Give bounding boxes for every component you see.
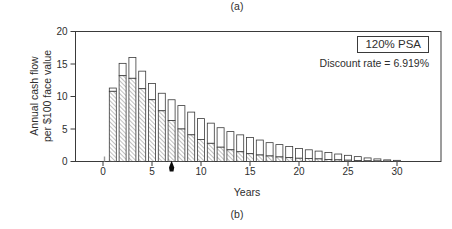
- y-tick-label: 5: [62, 124, 68, 135]
- y-tick-label: 20: [56, 26, 68, 37]
- bar-upper-year-22: [315, 151, 322, 159]
- bar-hatched-year-5: [149, 100, 156, 162]
- bar-hatched-year-12: [217, 147, 224, 161]
- bar-upper-year-11: [207, 123, 214, 143]
- x-tick-label: 20: [293, 166, 305, 177]
- cash-flow-bar-chart: 05101520051015202530: [0, 0, 452, 229]
- bar-hatched-year-15: [247, 154, 254, 162]
- bar-upper-year-12: [217, 128, 224, 148]
- bar-hatched-year-19: [286, 158, 293, 162]
- psa-legend-box: 120% PSA: [357, 36, 429, 53]
- discount-rate-label: Discount rate = 6.919%: [320, 57, 429, 69]
- x-tick-label: 5: [149, 166, 155, 177]
- bar-upper-year-3: [129, 58, 136, 79]
- bar-hatched-year-25: [345, 160, 352, 161]
- average-life-marker: [169, 161, 174, 172]
- bar-hatched-year-16: [256, 155, 263, 162]
- bar-hatched-year-13: [227, 150, 234, 162]
- bar-upper-year-10: [198, 119, 205, 140]
- psa-legend-label: 120% PSA: [365, 38, 421, 50]
- bar-hatched-year-7: [168, 121, 175, 162]
- bar-hatched-year-4: [139, 89, 146, 162]
- bar-upper-year-7: [168, 100, 175, 121]
- bar-hatched-year-11: [207, 143, 214, 161]
- y-tick-label: 0: [62, 156, 68, 167]
- x-tick-label: 15: [244, 166, 256, 177]
- bar-hatched-year-24: [335, 160, 342, 162]
- bar-hatched-year-28: [374, 161, 381, 162]
- x-tick-label: 10: [195, 166, 207, 177]
- bar-hatched-year-26: [354, 161, 361, 162]
- bar-upper-year-5: [149, 84, 156, 100]
- bar-hatched-year-2: [119, 76, 126, 162]
- y-tick-label: 15: [56, 59, 68, 70]
- bar-upper-year-15: [247, 137, 254, 153]
- bar-upper-year-23: [325, 152, 332, 159]
- y-tick-label: 10: [56, 91, 68, 102]
- bar-hatched-year-6: [158, 111, 165, 162]
- bar-upper-year-26: [354, 157, 361, 161]
- bar-upper-year-17: [266, 143, 273, 156]
- bar-hatched-year-17: [266, 156, 273, 162]
- bar-upper-year-6: [158, 93, 165, 111]
- bar-hatched-year-9: [188, 135, 195, 162]
- bar-upper-year-30: [394, 160, 401, 161]
- bar-upper-year-13: [227, 132, 234, 150]
- x-tick-label: 30: [391, 166, 403, 177]
- bar-upper-year-2: [119, 63, 126, 75]
- bar-upper-year-20: [296, 149, 303, 159]
- bar-hatched-year-27: [364, 161, 371, 162]
- bar-hatched-year-18: [276, 157, 283, 162]
- panel-label-b: (b): [231, 208, 244, 220]
- bar-upper-year-27: [364, 158, 371, 161]
- bar-hatched-year-1: [109, 91, 116, 161]
- bar-upper-year-19: [286, 147, 293, 158]
- x-tick-label: 25: [342, 166, 354, 177]
- bar-upper-year-18: [276, 145, 283, 157]
- bar-hatched-year-8: [178, 129, 185, 162]
- bar-upper-year-8: [178, 106, 185, 129]
- figure: (a) Annual cash flow per $100 face value…: [0, 0, 452, 229]
- bar-upper-year-21: [305, 150, 312, 159]
- x-axis-title: Years: [234, 186, 260, 198]
- bar-hatched-year-3: [129, 78, 136, 161]
- bar-upper-year-1: [109, 88, 116, 91]
- bar-hatched-year-23: [325, 160, 332, 162]
- bar-upper-year-14: [237, 135, 244, 152]
- bar-upper-year-9: [188, 112, 195, 135]
- bar-upper-year-24: [335, 154, 342, 160]
- bar-hatched-year-21: [305, 159, 312, 162]
- bar-upper-year-16: [256, 140, 263, 155]
- bar-hatched-year-10: [198, 139, 205, 161]
- bar-upper-year-4: [139, 71, 146, 89]
- bar-hatched-year-22: [315, 159, 322, 162]
- bar-hatched-year-14: [237, 152, 244, 162]
- bar-upper-year-25: [345, 155, 352, 160]
- bar-hatched-year-20: [296, 158, 303, 161]
- x-tick-label: 0: [100, 166, 106, 177]
